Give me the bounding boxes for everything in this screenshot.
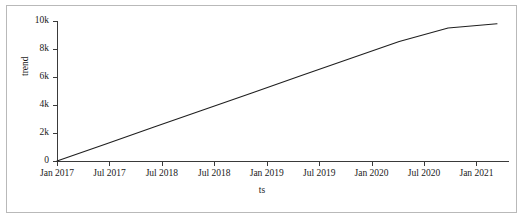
- chart-figure: 02k4k6k8k10k Jan 2017Jul 2017Jul 2018Jul…: [0, 0, 524, 219]
- trend-line-series: [57, 24, 497, 161]
- trend-line-chart: [0, 0, 524, 219]
